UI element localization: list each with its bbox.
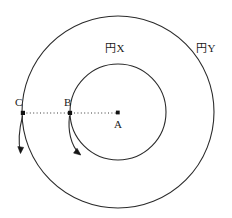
point-b-label: B xyxy=(64,97,71,108)
circle-x-label: 円X xyxy=(105,43,125,54)
point-c-marker xyxy=(21,111,25,115)
geometry-figure: 円X 円Y A B C xyxy=(0,0,232,218)
point-a-marker xyxy=(116,111,120,115)
figure-canvas xyxy=(0,0,232,218)
arrowhead-b xyxy=(74,148,81,155)
arrowhead-c xyxy=(18,147,24,154)
point-b-marker xyxy=(68,111,72,115)
circle-y-label: 円Y xyxy=(196,43,216,54)
point-c-label: C xyxy=(15,97,22,108)
point-a-label: A xyxy=(114,119,122,130)
